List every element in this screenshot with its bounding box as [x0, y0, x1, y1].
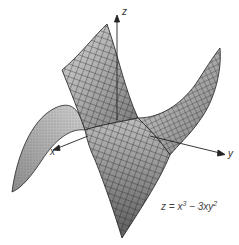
- equation-term2-exponent: 2: [213, 200, 217, 207]
- equation-operator: −: [189, 201, 195, 212]
- equation-term1-exponent: 3: [182, 200, 186, 207]
- z-axis-label: z: [122, 6, 127, 17]
- equation-lhs: z: [161, 201, 166, 212]
- surface-left-lobe: [12, 105, 85, 192]
- equation-label: z = x3 − 3xy2: [161, 200, 217, 212]
- x-axis: [58, 136, 88, 148]
- equation-equals: =: [169, 201, 175, 212]
- y-axis-label: y: [228, 148, 233, 159]
- y-axis-arrow-icon: [218, 150, 226, 156]
- z-axis-arrow-icon: [115, 15, 120, 22]
- x-axis-label: x: [50, 146, 55, 157]
- equation-term2: 3xy: [198, 201, 214, 212]
